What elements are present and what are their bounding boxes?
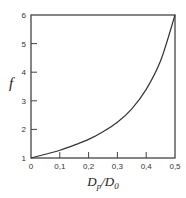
x-tick-label: 0,4 xyxy=(141,162,153,171)
plot-frame xyxy=(31,15,175,158)
y-tick-label: 5 xyxy=(22,40,27,49)
line-chart: 123456 00,10,20,30,40,5 f Dp/D0 xyxy=(0,0,186,198)
y-tick-label: 3 xyxy=(22,97,27,106)
y-tick-label: 4 xyxy=(22,68,27,77)
x-axis-ticks: 00,10,20,30,40,5 xyxy=(29,152,181,171)
x-axis-label: Dp/D0 xyxy=(86,174,119,191)
x-label-main-2: D xyxy=(104,174,115,189)
x-tick-label: 0,3 xyxy=(112,162,124,171)
x-label-sub-2: 0 xyxy=(114,181,119,191)
x-tick-label: 0 xyxy=(29,162,34,171)
x-label-main-1: D xyxy=(86,174,97,189)
x-tick-label: 0,5 xyxy=(169,162,181,171)
data-curve xyxy=(31,15,175,158)
y-axis-ticks: 123456 xyxy=(22,11,37,163)
y-axis-label: f xyxy=(9,75,15,91)
x-tick-label: 0,2 xyxy=(83,162,95,171)
x-tick-label: 0,1 xyxy=(54,162,66,171)
y-tick-label: 6 xyxy=(22,11,27,20)
y-tick-label: 1 xyxy=(22,154,27,163)
y-tick-label: 2 xyxy=(22,125,27,134)
